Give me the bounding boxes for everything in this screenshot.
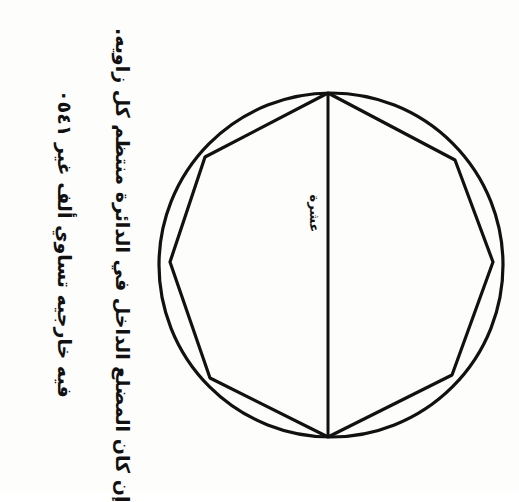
question-line-2: فيه خارجيه تساوي ألف غير ١٤٥٠ [54, 90, 76, 398]
question-line-1: إن كان المضلع الداخل في الدائرة منتظم كل… [112, 28, 134, 502]
figure-inner-label: عشرة [307, 195, 322, 233]
circle-outline [159, 93, 503, 437]
inscribed-polygon [170, 93, 493, 437]
